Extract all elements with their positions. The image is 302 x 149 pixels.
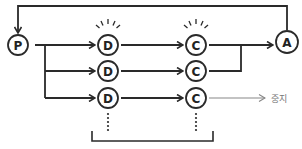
node-d2: D <box>98 61 118 81</box>
feedback-arrow <box>18 6 287 33</box>
node-c2: C <box>186 61 206 81</box>
node-c3: C <box>186 88 206 108</box>
node-d1-label: D <box>103 39 113 53</box>
highlight-rays-c1 <box>184 19 208 28</box>
highlight-rays-d1 <box>96 19 120 28</box>
stop-label: 중지 <box>271 94 287 104</box>
node-c3-label: C <box>192 92 201 106</box>
node-d1: D <box>98 35 118 55</box>
continuation-dots-c <box>195 113 197 131</box>
node-d3-label: D <box>103 92 113 106</box>
node-d2-label: D <box>103 65 113 79</box>
pdca-diagram: P D D D C C <box>0 0 302 149</box>
group-bracket <box>92 131 213 141</box>
node-p-label: P <box>14 39 23 53</box>
node-a-label: A <box>282 36 292 50</box>
merge-line-c2 <box>209 45 241 71</box>
node-p: P <box>8 35 28 55</box>
node-a: A <box>276 31 298 53</box>
node-c1-label: C <box>192 39 201 53</box>
continuation-dots-d <box>107 113 109 131</box>
node-c1: C <box>186 35 206 55</box>
branch-line <box>35 45 45 98</box>
node-c2-label: C <box>192 65 201 79</box>
node-d3: D <box>98 88 118 108</box>
